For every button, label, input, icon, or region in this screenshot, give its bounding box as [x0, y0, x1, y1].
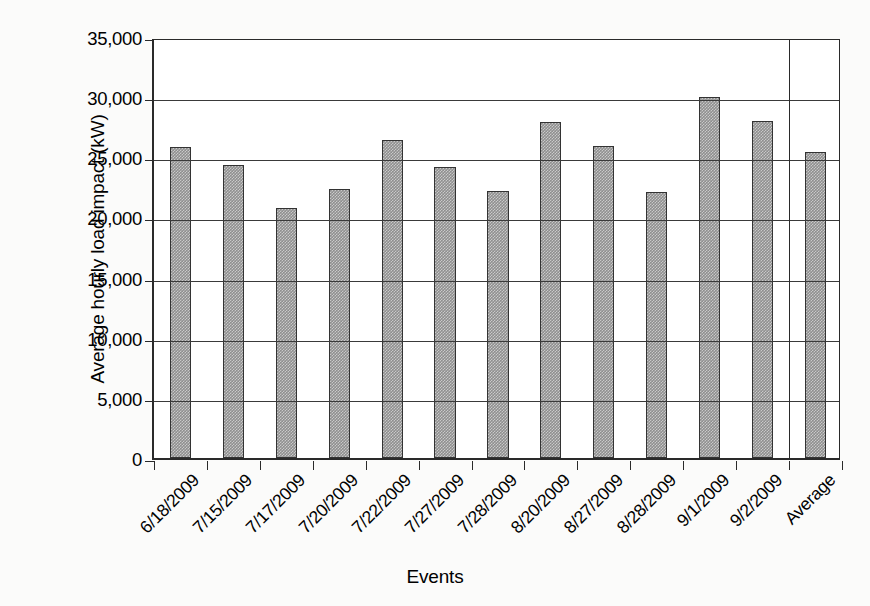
bar [646, 192, 667, 458]
x-axis-tick-label: 9/2/2009 [725, 470, 786, 531]
y-axis-tick-mark [145, 40, 154, 41]
y-axis-tick-label: 0 [20, 451, 142, 469]
bar [329, 189, 350, 458]
bar [699, 97, 720, 458]
average-separator-line [789, 40, 790, 458]
bar-series [154, 40, 839, 458]
x-axis-tick-label: 9/1/2009 [672, 470, 733, 531]
gridline [154, 341, 839, 342]
y-axis-tick-label: 15,000 [20, 271, 142, 289]
x-axis-tick-mark [842, 461, 843, 470]
y-axis-tick-mark [145, 461, 154, 462]
bar-chart: Average hourly load impact (kW) 05,00010… [0, 0, 870, 606]
gridline [154, 281, 839, 282]
bar [593, 146, 614, 458]
y-axis-tick-label: 25,000 [20, 150, 142, 168]
gridline [154, 100, 839, 101]
bar [540, 122, 561, 458]
y-axis-tick-mark [145, 341, 154, 342]
y-axis-tick-labels: 05,00010,00015,00020,00025,00030,00035,0… [20, 0, 142, 606]
y-axis-tick-mark [145, 281, 154, 282]
x-axis-tick-labels: 6/18/20097/15/20097/17/20097/20/20097/22… [152, 463, 840, 563]
gridline [154, 160, 839, 161]
plot-area [152, 39, 840, 460]
y-axis-tick-mark [145, 220, 154, 221]
y-axis-tick-mark [145, 401, 154, 402]
gridline [154, 220, 839, 221]
bar [434, 167, 455, 458]
x-axis-title: Events [0, 566, 870, 588]
y-axis-tick-mark [145, 160, 154, 161]
bar [276, 208, 297, 458]
y-axis-tick-label: 20,000 [20, 210, 142, 228]
y-axis-tick-mark [145, 100, 154, 101]
y-axis-tick-label: 5,000 [20, 391, 142, 409]
y-axis-tick-label: 10,000 [20, 331, 142, 349]
x-axis-tick-label: Average [780, 470, 839, 529]
bar [223, 165, 244, 458]
y-axis-tick-label: 30,000 [20, 90, 142, 108]
bar [382, 140, 403, 458]
y-axis-tick-label: 35,000 [20, 30, 142, 48]
bar [170, 147, 191, 458]
bar [752, 121, 773, 458]
bar [487, 191, 508, 458]
gridline [154, 401, 839, 402]
bar [805, 152, 826, 458]
